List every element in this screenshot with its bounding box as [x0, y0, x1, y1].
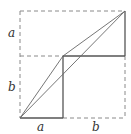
label-left-top: a [8, 26, 15, 40]
diagram-canvas: a b a b [0, 0, 131, 134]
label-bottom-left: a [37, 120, 44, 134]
main-diagonal [20, 11, 125, 118]
label-left-bottom: b [8, 80, 16, 94]
hypotenuse-lower [20, 56, 63, 118]
hypotenuse-upper [63, 11, 125, 56]
label-bottom-right: b [92, 120, 100, 134]
